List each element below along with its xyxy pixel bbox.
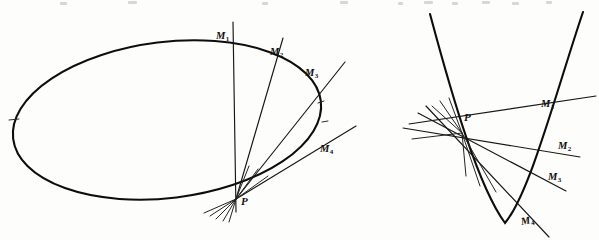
label-m3-ellipse-letter: M [305, 67, 314, 78]
label-m2-ellipse-sub: 2 [280, 51, 284, 59]
label-m4-parabola: M4 [520, 215, 534, 228]
label-m1-ellipse: M1 [216, 31, 229, 42]
label-p-ellipse: P [241, 196, 248, 207]
label-m1-parabola-sub: 1 [551, 103, 555, 111]
secant-line-pm2-parabola [403, 128, 580, 157]
label-m4-ellipse-letter: M [320, 143, 329, 154]
ellipse-figure-group [4, 22, 356, 222]
label-m2-parabola-sub: 2 [568, 145, 572, 153]
label-m3-parabola-letter: M [548, 171, 557, 182]
label-m2-ellipse-letter: M [270, 46, 279, 57]
ellipse-left-tick [9, 119, 19, 120]
label-m2-parabola: M2 [558, 141, 571, 152]
secant-line-pm3-parabola [418, 113, 566, 191]
label-m3-parabola-sub: 3 [558, 176, 562, 184]
label-m1-ellipse-sub: 1 [226, 35, 230, 43]
secant-line-pm3-ellipse [236, 62, 345, 199]
label-m3-parabola: M3 [548, 172, 561, 183]
tangent-stroke-a-ellipse [204, 199, 236, 213]
label-m1-ellipse-letter: M [216, 30, 225, 41]
label-m1-parabola-letter: M [541, 98, 550, 109]
label-m3-ellipse: M3 [305, 68, 318, 79]
figure-sheet: M1 M2 M3 M4 P M1 M2 M3 M4 P [0, 0, 599, 240]
label-m2-ellipse: M2 [270, 47, 283, 58]
label-m2-parabola-letter: M [558, 140, 567, 151]
label-p-parabola: P [464, 112, 471, 123]
figure-canvas [0, 0, 599, 240]
label-m4-ellipse-sub: 4 [330, 148, 334, 156]
parabola-figure-group [403, 12, 596, 237]
label-m4-parabola-letter: M [520, 215, 531, 227]
ellipse-rim-tick-2 [322, 121, 328, 122]
label-m4-ellipse: M4 [320, 144, 333, 155]
label-m1-parabola: M1 [541, 99, 554, 110]
label-m3-ellipse-sub: 3 [315, 72, 319, 80]
